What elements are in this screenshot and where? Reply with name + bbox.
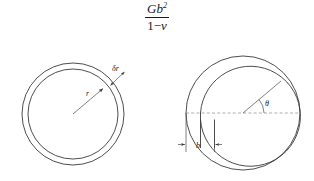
fraction: Gb2 1−v (144, 2, 170, 32)
theta-arc (259, 100, 264, 114)
numerator-base: Gb (147, 1, 163, 16)
denominator-minus: − (154, 18, 161, 33)
formula-caption: Gb2 1−v (0, 2, 314, 32)
left-panel-group (22, 63, 125, 165)
delta-r-label: δr (112, 64, 120, 73)
fraction-denominator: 1−v (144, 18, 170, 33)
theta-radius-line (243, 81, 281, 113)
burgers-vector-label: b (196, 141, 200, 150)
radius-label: r (86, 89, 90, 98)
theta-label: θ (265, 99, 269, 108)
fraction-numerator: Gb2 (144, 2, 170, 17)
numerator-exponent: 2 (163, 1, 167, 10)
denominator-nu: v (161, 18, 167, 33)
delta-r-arrow-outer (118, 72, 125, 78)
right-panel-group (178, 56, 301, 170)
figure-root: Gb2 1−v r δr (0, 0, 314, 181)
